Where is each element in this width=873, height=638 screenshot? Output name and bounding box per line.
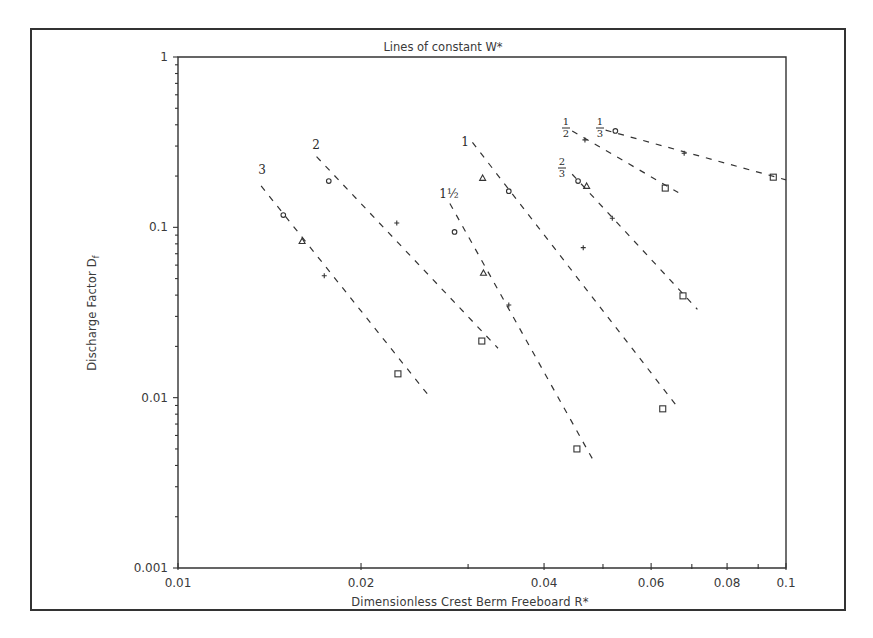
y-tick-label: 0.001 (134, 561, 168, 575)
y-tick-label: 1 (160, 50, 168, 64)
fit-line (572, 174, 697, 309)
x-tick-label: 0.06 (638, 576, 665, 590)
square-marker (574, 446, 580, 452)
fit-line (606, 130, 786, 180)
fraction-label: 12 (562, 116, 570, 139)
fraction-label: 23 (558, 156, 566, 179)
plus-marker (582, 137, 587, 142)
square-marker (770, 174, 776, 180)
fit-line (572, 131, 678, 193)
fit-line (450, 204, 592, 459)
circle-marker (576, 179, 581, 184)
x-tick-label: 0.1 (776, 576, 795, 590)
svg-text:3: 3 (559, 168, 565, 179)
circle-marker (613, 129, 618, 134)
line-label: 1 (461, 135, 469, 149)
ticks: 0.0010.010.110.010.020.040.060.080.1 (134, 50, 796, 590)
square-marker (680, 293, 686, 299)
y-tick-label: 0.1 (149, 220, 168, 234)
svg-text:2: 2 (563, 128, 569, 139)
plus-marker (394, 221, 399, 226)
x-tick-label: 0.08 (714, 576, 741, 590)
plot-area-border (178, 57, 786, 568)
svg-text:Discharge Factor Df: Discharge Factor Df (85, 255, 101, 371)
chart: Lines of constant W* 0.0010.010.110.010.… (0, 0, 873, 638)
circle-marker (326, 179, 331, 184)
plus-marker (610, 216, 615, 221)
y-axis-title-subscript: f (92, 255, 101, 258)
fit-line (261, 186, 430, 398)
x-axis-title: Dimensionless Crest Berm Freeboard R* (351, 595, 589, 609)
fit-line (472, 142, 678, 408)
plus-marker (581, 245, 586, 250)
square-marker (479, 338, 485, 344)
series-w-1-2 (572, 131, 678, 193)
fraction-label: 13 (596, 116, 604, 139)
plus-marker (322, 273, 327, 278)
fit-line (317, 157, 498, 349)
square-marker (660, 406, 666, 412)
svg-text:1: 1 (563, 116, 569, 127)
series-w-1-5 (450, 204, 592, 459)
svg-text:2: 2 (559, 156, 565, 167)
svg-text:3: 3 (597, 128, 603, 139)
triangle-marker (480, 175, 486, 180)
circle-marker (452, 230, 457, 235)
series-w-3 (261, 186, 430, 398)
series-group (261, 129, 786, 459)
y-tick-label: 0.01 (141, 391, 168, 405)
x-tick-label: 0.02 (348, 576, 375, 590)
series-w-1-3 (606, 129, 786, 181)
y-axis-title-group: Discharge Factor Df (85, 255, 101, 371)
chart-title: Lines of constant W* (383, 40, 502, 54)
square-marker (395, 371, 401, 377)
x-tick-label: 0.04 (531, 576, 558, 590)
series-w-1 (472, 142, 678, 411)
triangle-marker (480, 270, 486, 275)
line-labels: 321½1231213 (258, 116, 604, 201)
circle-marker (506, 189, 511, 194)
y-axis-title: Discharge Factor D (85, 258, 99, 371)
series-w-2-3 (572, 174, 697, 309)
svg-text:1: 1 (597, 116, 603, 127)
series-w-2 (317, 157, 498, 349)
line-label: 3 (258, 163, 266, 177)
x-tick-label: 0.01 (165, 576, 192, 590)
line-label: 2 (312, 138, 320, 152)
axes (178, 57, 786, 568)
line-label: 1½ (439, 187, 458, 201)
triangle-marker (584, 183, 590, 188)
circle-marker (281, 213, 286, 218)
